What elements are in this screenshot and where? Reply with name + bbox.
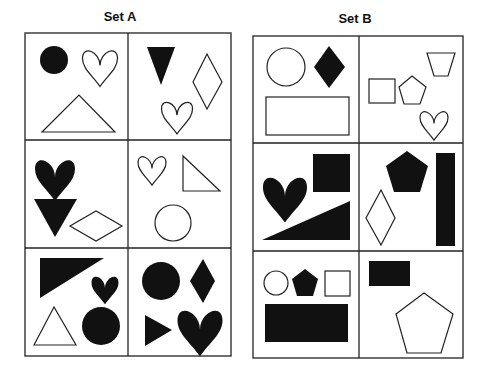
set-b-cell-1-2: [369, 53, 455, 140]
white-rectangle-icon: [266, 97, 349, 135]
white-heart-icon: [138, 157, 166, 186]
set-a-cell-3-1: [34, 258, 120, 345]
set-a-cell-2-1: [34, 160, 122, 241]
black-pentagon-icon: [386, 151, 428, 192]
white-circle-icon: [264, 271, 288, 295]
set-b-cell-3-1: [264, 269, 350, 342]
black-inverted-triangle-icon: [147, 47, 175, 85]
set-b-cell-2-1: [262, 154, 350, 240]
white-right-triangle-icon: [183, 156, 220, 191]
set-a-cell-1-2: [147, 47, 222, 134]
white-heart-icon: [83, 51, 118, 87]
white-pentagon-icon: [399, 76, 426, 104]
black-triangle-icon: [145, 315, 172, 346]
white-square-icon: [369, 79, 395, 103]
black-circle-icon: [142, 262, 180, 300]
black-pentagon-icon: [292, 269, 318, 296]
black-rectangle-icon: [265, 304, 348, 342]
black-square-icon: [313, 154, 350, 192]
black-bar-icon: [436, 153, 455, 246]
shape-sets-diagram: [0, 0, 487, 377]
black-circle-icon: [40, 46, 68, 74]
black-heart-icon: [35, 160, 75, 201]
white-heart-icon: [420, 112, 448, 141]
white-triangle-icon: [42, 95, 115, 132]
white-pentagon-icon: [396, 293, 453, 353]
black-rectangle-icon: [369, 261, 410, 286]
white-circle-icon: [155, 205, 191, 241]
set-b-cell-1-1: [266, 46, 349, 135]
set-a-cell-1-1: [40, 46, 118, 132]
black-diamond-icon: [190, 259, 215, 303]
black-inverted-triangle-icon: [34, 199, 77, 237]
set-b-cell-2-2: [366, 151, 455, 246]
set-a-cell-2-2: [138, 156, 220, 241]
set-a-cell-3-2: [142, 259, 223, 357]
white-heart-icon: [162, 102, 193, 134]
black-heart-icon: [92, 277, 119, 304]
black-heart-icon: [263, 178, 307, 223]
set-b-cell-3-2: [369, 261, 453, 353]
white-diamond-icon: [193, 54, 222, 109]
black-diamond-icon: [314, 46, 345, 88]
black-heart-icon: [178, 311, 223, 357]
white-square-icon: [325, 271, 350, 296]
white-diamond-icon: [70, 211, 122, 241]
white-diamond-icon: [366, 190, 395, 245]
white-triangle-icon: [34, 307, 76, 345]
black-circle-icon: [82, 307, 120, 345]
white-circle-icon: [267, 48, 305, 86]
white-trapezoid-icon: [427, 53, 455, 76]
